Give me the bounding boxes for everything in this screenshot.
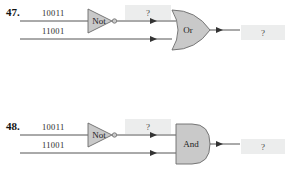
arrowhead-and-lower-input [150, 150, 157, 156]
or-gate-label: Or [183, 25, 193, 35]
not-gate-label: Not [92, 130, 106, 140]
figure-logic-circuits: 47. 10011 11001 ? ? Not [0, 0, 288, 177]
circuit-diagram-48: Not And [0, 114, 288, 170]
arrowhead-and-output [216, 141, 223, 147]
not-gate-bubble-icon [112, 19, 116, 23]
arrowhead-or-lower-input [150, 36, 157, 42]
not-gate-label: Not [92, 16, 106, 26]
arrowhead-and-upper-input [150, 132, 157, 138]
and-gate-label: And [183, 139, 199, 149]
not-gate-bubble-icon [112, 133, 116, 137]
circuit-diagram-47: Not Or [0, 0, 288, 56]
arrowhead-or-output [216, 27, 223, 33]
arrowhead-or-upper-input [150, 18, 157, 24]
